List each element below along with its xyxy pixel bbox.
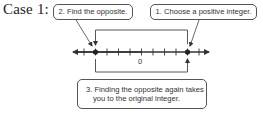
number-line-diagram [0,0,263,116]
point-positive-integer [185,49,190,54]
point-opposite [93,49,98,54]
top-bracket-arrow-icon [96,30,188,45]
number-line [73,49,209,56]
pointer-step-2-arrow-icon [76,20,92,46]
pointer-step-1-arrow-icon [190,20,199,46]
zero-tick-label: 0 [138,57,142,66]
